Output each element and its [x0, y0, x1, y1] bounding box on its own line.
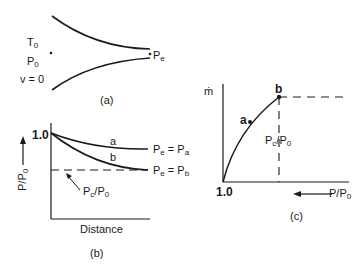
label-pe: Pe	[153, 50, 165, 64]
c-point-b-label: b	[275, 84, 282, 95]
caption-a: (a)	[100, 95, 113, 106]
b-curve-a	[51, 133, 148, 149]
c-xlabel: P/P0	[329, 188, 351, 202]
exit-point	[149, 53, 152, 56]
b-ylabel-arrowhead	[20, 136, 26, 144]
c-point-a	[248, 120, 252, 124]
c-x-tick: 1.0	[216, 187, 233, 198]
b-pointer-arrowhead	[66, 173, 72, 179]
b-y-tick: 1.0	[32, 130, 49, 141]
b-xlabel: Distance	[80, 224, 123, 235]
b-end-a-label: Pe = Pa	[153, 144, 189, 158]
nozzle-lower-wall	[52, 58, 150, 90]
b-critical-label: Pc/P0	[83, 186, 109, 200]
b-curve-a-label: a	[110, 136, 116, 147]
caption-c: (c)	[290, 211, 303, 222]
c-xlabel-arrowhead	[293, 191, 301, 197]
inlet-point	[50, 52, 53, 55]
b-end-b-label: Pe = Pb	[153, 165, 189, 179]
diagram-canvas	[0, 0, 362, 267]
c-ylabel: ṁ	[204, 86, 213, 97]
b-curve-b-label: b	[110, 152, 116, 163]
label-t0: T0	[27, 37, 38, 51]
caption-b: (b)	[90, 248, 103, 259]
c-point-a-label: a	[240, 115, 247, 126]
label-p0: P0	[27, 56, 39, 70]
nozzle-upper-wall	[52, 16, 150, 49]
c-critical-label: Pc/P0	[265, 135, 291, 149]
b-ylabel: P/P0	[17, 169, 31, 191]
label-velocity: v = 0	[20, 74, 44, 85]
